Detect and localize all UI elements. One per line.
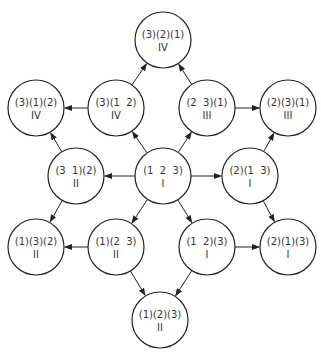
node-permutation-label: (1)(2 3) — [95, 236, 136, 247]
node-class-label: IV — [158, 42, 168, 53]
graph-node: (3)(1)(2)IV — [8, 80, 64, 136]
node-permutation-label: (2)(3)(1) — [267, 97, 310, 108]
arrow-edge — [179, 64, 192, 84]
node-circle — [48, 148, 104, 204]
arrow-edge — [263, 201, 274, 222]
graph-node: (1)(2 3)II — [88, 219, 144, 275]
arrow-edge — [130, 271, 145, 295]
node-circle — [135, 12, 191, 68]
arrow-edge — [178, 132, 191, 152]
graph-node: (3 1)(2)II — [48, 148, 104, 204]
node-circle — [8, 80, 64, 136]
graph-node: (1 2 3)I — [135, 148, 191, 204]
arrow-edge — [51, 133, 62, 152]
node-permutation-label: (3)(1)(2) — [15, 97, 58, 108]
node-permutation-label: (1)(3)(2) — [15, 236, 58, 247]
node-circle — [8, 219, 64, 275]
graph-node: (2 3)(1)III — [179, 80, 235, 136]
nodes-layer: (3)(2)(1)IV(3)(1)(2)IV(3)(1 2)IV(2 3)(1)… — [8, 12, 316, 348]
arrow-edge — [50, 200, 62, 221]
node-permutation-label: (3 1)(2) — [55, 165, 96, 176]
node-class-label: II — [113, 249, 119, 260]
node-circle — [179, 80, 235, 136]
node-class-label: IV — [111, 110, 121, 121]
node-class-label: I — [162, 178, 165, 189]
graph-node: (2)(1 3)I — [222, 148, 278, 204]
node-permutation-label: (2)(1)(3) — [267, 236, 310, 247]
arrow-edge — [132, 132, 147, 153]
permutation-graph: (3)(2)(1)IV(3)(1)(2)IV(3)(1 2)IV(2 3)(1)… — [0, 0, 321, 353]
arrow-edge — [132, 199, 148, 222]
graph-node: (1)(3)(2)II — [8, 219, 64, 275]
node-permutation-label: (3)(2)(1) — [142, 29, 185, 40]
node-permutation-label: (1 2 3) — [143, 165, 183, 176]
node-circle — [222, 148, 278, 204]
node-class-label: III — [203, 110, 212, 121]
node-circle — [260, 219, 316, 275]
graph-node: (1)(2)(3)II — [132, 292, 188, 348]
node-class-label: II — [73, 178, 79, 189]
node-class-label: II — [33, 249, 39, 260]
node-permutation-label: (1 2)(3) — [186, 236, 227, 247]
node-class-label: I — [206, 249, 209, 260]
node-circle — [135, 148, 191, 204]
node-permutation-label: (2)(1 3) — [229, 165, 270, 176]
node-permutation-label: (3)(1 2) — [95, 97, 136, 108]
arrow-edge — [264, 133, 274, 151]
node-class-label: IV — [31, 110, 41, 121]
node-permutation-label: (1)(2)(3) — [139, 309, 182, 320]
node-circle — [88, 219, 144, 275]
graph-node: (1 2)(3)I — [179, 219, 235, 275]
node-permutation-label: (2 3)(1) — [186, 97, 227, 108]
graph-node: (2)(1)(3)I — [260, 219, 316, 275]
node-class-label: II — [157, 322, 163, 333]
node-circle — [260, 80, 316, 136]
graph-node: (3)(2)(1)IV — [135, 12, 191, 68]
arrow-edge — [132, 64, 147, 85]
node-class-label: III — [284, 110, 293, 121]
arrow-edge — [178, 200, 192, 223]
arrow-edge — [176, 271, 192, 296]
graph-node: (3)(1 2)IV — [88, 80, 144, 136]
graph-node: (2)(3)(1)III — [260, 80, 316, 136]
node-class-label: I — [249, 178, 252, 189]
node-circle — [88, 80, 144, 136]
node-circle — [132, 292, 188, 348]
node-class-label: I — [287, 249, 290, 260]
node-circle — [179, 219, 235, 275]
